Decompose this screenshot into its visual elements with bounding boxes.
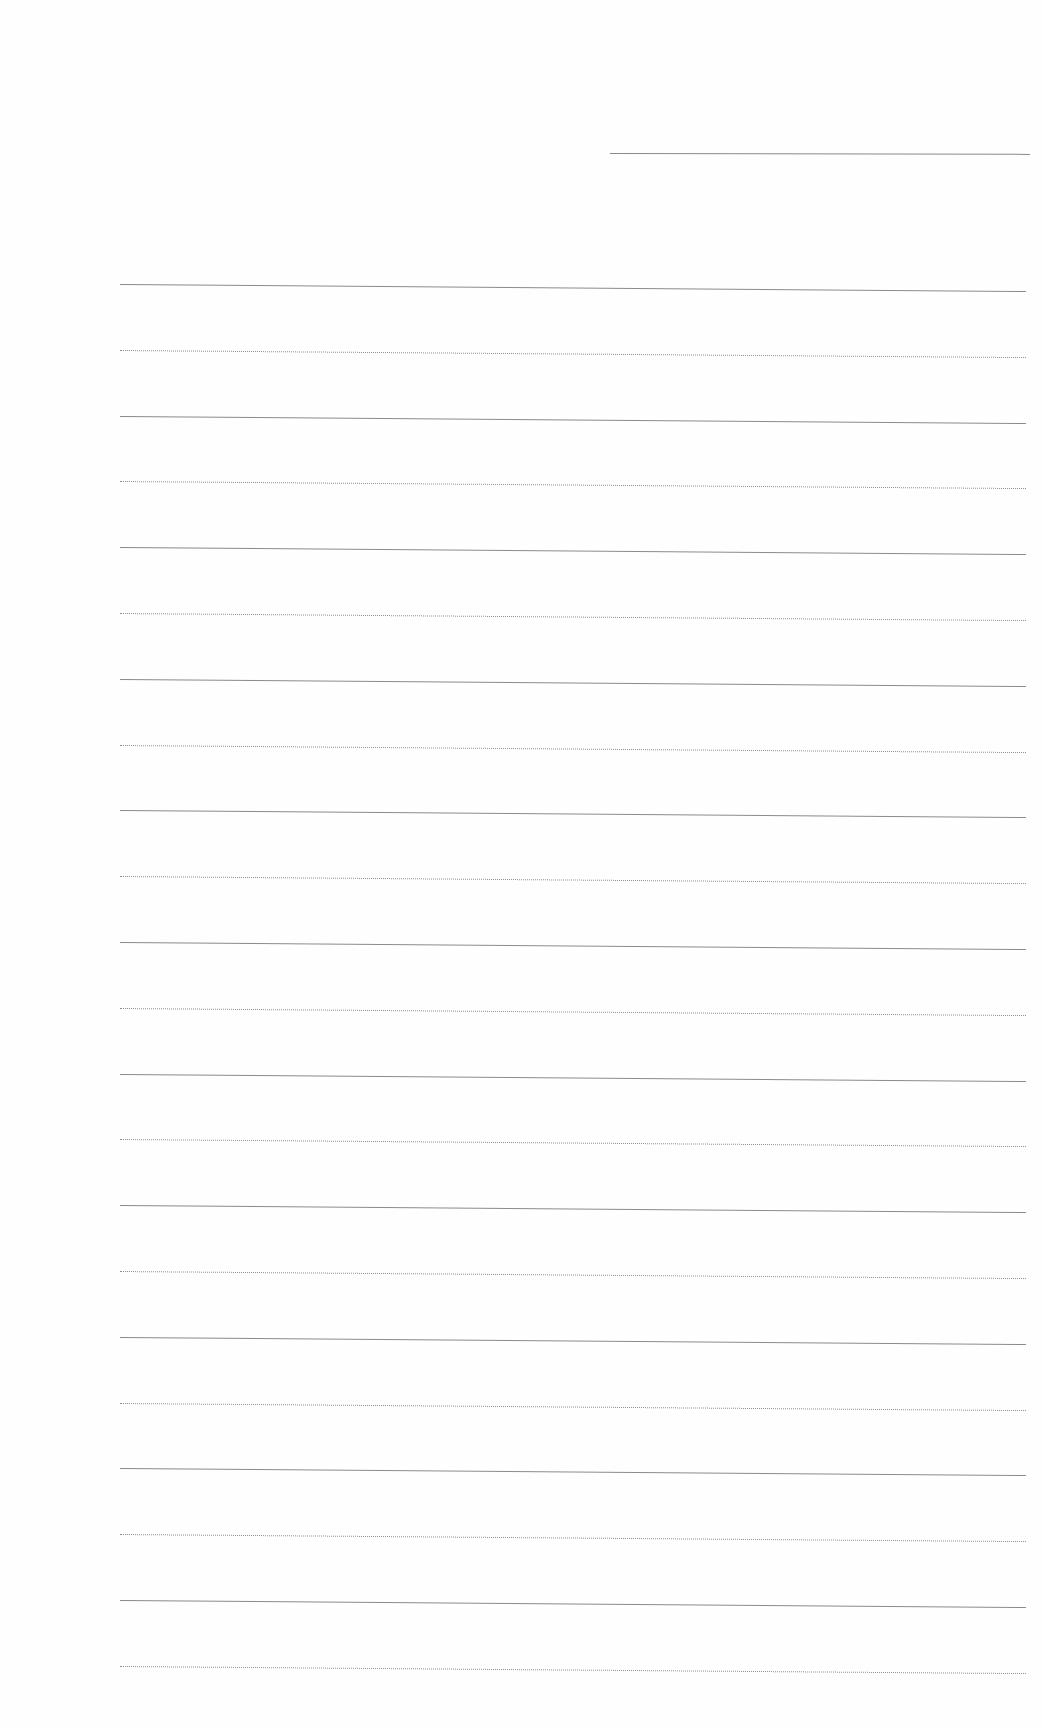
- header-name-line: [610, 153, 1030, 155]
- ruled-line: [120, 1008, 1026, 1016]
- ruled-line: [120, 745, 1026, 753]
- ruled-line: [120, 613, 1026, 621]
- ruled-line: [120, 1468, 1026, 1476]
- ruled-line: [120, 1271, 1026, 1279]
- ruled-line: [120, 481, 1026, 489]
- ruled-line: [120, 679, 1026, 687]
- ruled-line: [120, 876, 1026, 884]
- ruled-line: [120, 1534, 1026, 1542]
- lined-paper-page: [0, 0, 1042, 1728]
- ruled-line: [120, 1139, 1026, 1147]
- ruled-line: [120, 284, 1026, 292]
- ruled-line: [120, 547, 1026, 555]
- ruled-line: [120, 1205, 1026, 1213]
- ruled-line: [120, 1600, 1026, 1608]
- ruled-line: [120, 1666, 1026, 1674]
- ruled-line: [120, 350, 1026, 358]
- ruled-line: [120, 942, 1026, 950]
- ruled-line: [120, 1403, 1026, 1411]
- ruled-line: [120, 1337, 1026, 1345]
- ruled-line: [120, 810, 1026, 818]
- ruled-line: [120, 1074, 1026, 1082]
- ruled-line: [120, 416, 1026, 424]
